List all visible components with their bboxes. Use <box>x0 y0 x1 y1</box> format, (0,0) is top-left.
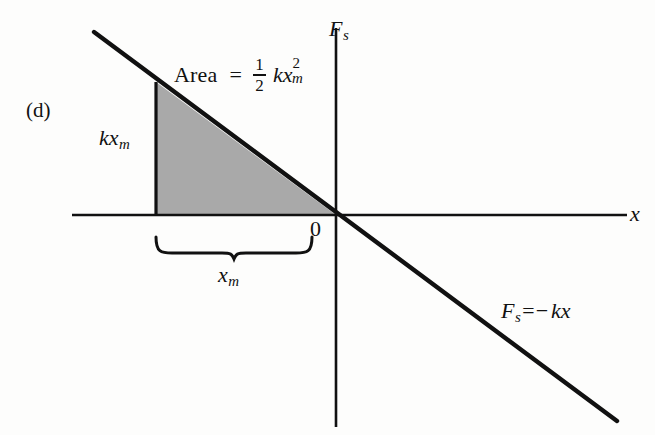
line-equation: Fs=−kx <box>501 300 571 325</box>
fraction-numerator: 1 <box>253 56 266 74</box>
spring-force-diagram: (d) Fs x 0 kxm xm Area = 1 2 kx2m Fs=−kx <box>0 0 655 435</box>
equation-kx-term: kx <box>551 298 571 323</box>
area-expression: Area = 1 2 kx2m <box>174 56 308 94</box>
height-label-symbol: kx <box>99 125 119 150</box>
width-label-subscript: m <box>228 273 239 289</box>
y-axis-label-subscript: s <box>343 27 349 43</box>
area-kx-term: kx <box>273 64 293 86</box>
area-exponent: 2 <box>293 56 300 71</box>
equation-equals-sign: = <box>521 298 536 323</box>
y-axis-label: Fs <box>329 18 349 43</box>
y-axis-label-symbol: F <box>329 16 342 41</box>
area-equals-sign: = <box>230 64 242 86</box>
equation-minus-sign: − <box>536 298 548 323</box>
width-brace <box>156 237 312 259</box>
diagram-canvas <box>0 0 655 435</box>
width-label-symbol: x <box>218 262 228 287</box>
area-subscript: m <box>292 71 303 86</box>
equation-F-symbol: F <box>501 298 514 323</box>
shaded-work-area <box>156 82 336 215</box>
origin-label: 0 <box>310 218 321 240</box>
one-half-fraction: 1 2 <box>253 56 266 94</box>
fraction-denominator: 2 <box>253 76 266 94</box>
width-label: xm <box>218 264 239 289</box>
area-script-cluster: 2m <box>293 64 309 86</box>
height-label: kxm <box>99 127 130 152</box>
area-word: Area <box>174 64 218 86</box>
panel-label: (d) <box>26 100 51 121</box>
height-label-subscript: m <box>119 136 130 152</box>
x-axis-label: x <box>630 203 640 225</box>
force-line <box>94 32 617 421</box>
